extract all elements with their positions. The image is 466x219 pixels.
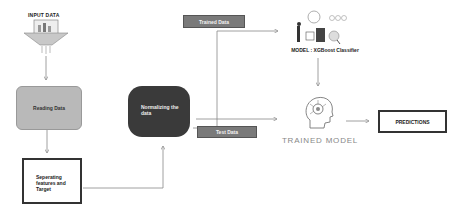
- brain-head-icon: [300, 94, 336, 132]
- separating-features-box: Seperating features and Target: [22, 158, 82, 204]
- separating-features-label: Seperating features and Target: [36, 174, 80, 192]
- reading-data-label: Reading Data: [33, 105, 65, 111]
- data-funnel-icon: [22, 19, 70, 55]
- normalizing-data-box: Normalizing the data: [128, 86, 190, 137]
- ml-model-illustration-icon: [294, 8, 350, 46]
- normalizing-data-label: Normalizing the data: [141, 104, 185, 116]
- test-data-label: Test Data: [216, 129, 238, 135]
- test-data-tag: Test Data: [197, 126, 257, 138]
- model-label: MODEL : XGBoost Classifier: [280, 47, 370, 53]
- reading-data-box: Reading Data: [16, 86, 82, 130]
- trained-model-label: TRAINED MODEL: [280, 136, 360, 145]
- trained-data-tag: Trained Data: [183, 15, 245, 28]
- predictions-label: PREDICTIONS: [395, 119, 429, 125]
- input-data-label: INPUT DATA: [28, 12, 60, 18]
- trained-data-label: Trained Data: [199, 19, 229, 25]
- predictions-box: PREDICTIONS: [378, 110, 447, 133]
